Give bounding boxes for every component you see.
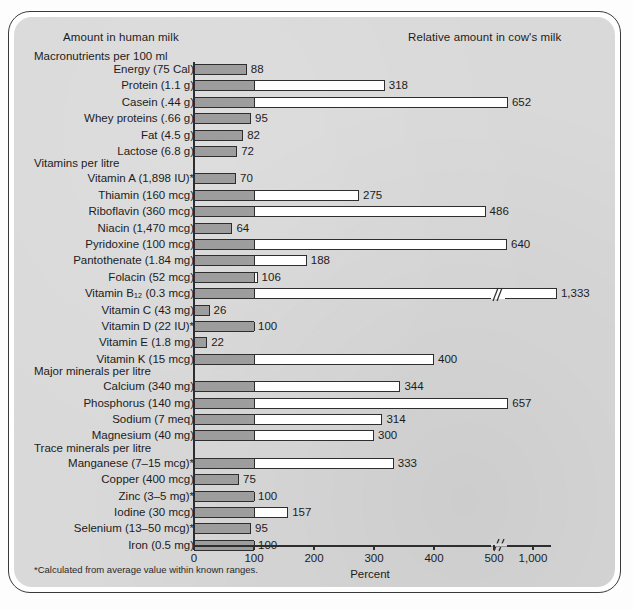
row-label: Magnesium (40 mg) [92,429,194,442]
chart-row: Vitamin A (1,898 IU)*70 [0,172,633,185]
bar [194,190,359,201]
row-label: Vitamin D (22 IU)* [102,320,194,333]
row-label: Casein (.44 g) [122,96,194,109]
bar-shaded-portion [195,131,242,140]
bar [194,206,486,217]
x-axis-tick-label: 200 [304,552,323,564]
bar [194,239,507,250]
bar [194,458,394,469]
bar [194,354,434,365]
bar-value-label: 300 [378,429,397,442]
bar [194,173,236,184]
section-heading: Trace minerals per litre [34,442,151,454]
bar-value-label: 157 [292,506,311,519]
chart-row: Sodium (7 meq)314 [0,413,633,426]
x-axis-tick [373,545,375,550]
bar-shaded-portion [195,147,236,156]
chart-row: Fat (4.5 g)82 [0,129,633,142]
row-label: Copper (400 mcg) [101,473,194,486]
bar-value-label: 318 [389,79,408,92]
bar-shaded-portion [195,207,255,216]
row-label: Niacin (1,470 mcg) [97,222,194,235]
row-label: Phosphorus (140 mg) [83,397,194,410]
x-axis-tick-label: 400 [424,552,443,564]
chart-row: Riboflavin (360 mcg)486 [0,205,633,218]
chart-row: Phosphorus (140 mg)657 [0,397,633,410]
bar [194,288,557,299]
chart-row: Lactose (6.8 g)72 [0,145,633,158]
x-axis-tick [193,545,195,550]
row-label: Thiamin (160 mcg) [98,189,194,202]
section-heading: Major minerals per litre [34,365,151,377]
chart-row: Protein (1.1 g)318 [0,79,633,92]
x-axis-tick [253,545,255,550]
bar-shaded-portion [195,289,255,298]
bar-value-label: 1,333 [561,287,590,300]
row-label: Vitamin C (43 mg) [102,304,194,317]
bar [194,305,210,316]
chart-row: Calcium (340 mg)344 [0,380,633,393]
chart-row: Niacin (1,470 mcg)64 [0,222,633,235]
bar-shaded-portion [195,273,255,282]
bar-value-label: 26 [214,304,227,317]
row-label: Lactose (6.8 g) [117,145,194,158]
bar [194,398,508,409]
bar [194,97,508,108]
bar-value-label: 486 [490,205,509,218]
row-label: Selenium (13–50 mcg)* [74,522,194,535]
bar-value-label: 72 [241,145,254,158]
bar-value-label: 106 [262,271,281,284]
row-label: Vitamin A (1,898 IU)* [87,172,194,185]
row-label: Protein (1.1 g) [121,79,194,92]
bar-shaded-portion [195,431,255,440]
bar-shaded-portion [195,224,231,233]
chart-row: Vitamin C (43 mg)26 [0,304,633,317]
bar-value-label: 82 [247,129,260,142]
chart-row: Pantothenate (1.84 mg)188 [0,254,633,267]
x-axis-tick [532,545,534,550]
bar-value-label: 314 [386,413,405,426]
row-label: Whey proteins (.66 g) [84,112,194,125]
row-label: Vitamin K (15 mcg) [96,353,194,366]
bar [194,130,243,141]
chart-row: Manganese (7–15 mcg)*333 [0,457,633,470]
bar-shaded-portion [195,459,255,468]
bar-value-label: 70 [240,172,253,185]
bar [194,523,251,534]
bar-shaded-portion [195,524,250,533]
bar-value-label: 640 [511,238,530,251]
x-axis-tick-label: 100 [244,552,263,564]
bar-value-label: 75 [243,473,256,486]
bar-value-label: 22 [211,336,224,349]
bar [194,255,307,266]
bar [194,223,232,234]
chart-row: Magnesium (40 mg)300 [0,429,633,442]
bar-value-label: 64 [236,222,249,235]
row-label: Zinc (3–5 mg)* [119,490,194,503]
chart-row: Whey proteins (.66 g)95 [0,112,633,125]
bar-shaded-portion [195,508,255,517]
row-label: Vitamin E (1.8 mg) [99,336,194,349]
chart-row: Vitamin K (15 mcg)400 [0,353,633,366]
chart-row: Thiamin (160 mcg)275 [0,189,633,202]
footnote: *Calculated from average value within kn… [34,564,258,575]
chart-row: Vitamin B₁₂ (0.3 mcg)1,333 [0,287,633,300]
bar-shaded-portion [195,65,246,74]
chart-page: Amount in human milk Relative amount in … [0,0,633,609]
bar-shaded-portion [195,81,255,90]
x-axis-tick-label: 500 [484,552,503,564]
bar-shaded-portion [195,174,235,183]
x-axis-tick-label: 300 [364,552,383,564]
bar-shaded-portion [195,399,255,408]
row-label: Folacin (52 mcg) [108,271,194,284]
bar [194,113,251,124]
row-label: Iron (0.5 mg) [128,539,194,552]
row-label: Energy (75 Cal) [113,63,194,76]
row-label: Riboflavin (360 mcg) [89,205,194,218]
bar-shaded-portion [195,355,255,364]
bar [194,80,385,91]
chart-row: Copper (400 mcg)75 [0,473,633,486]
chart-row: Vitamin E (1.8 mg)22 [0,336,633,349]
x-axis-tick [313,545,315,550]
bar [194,491,254,502]
